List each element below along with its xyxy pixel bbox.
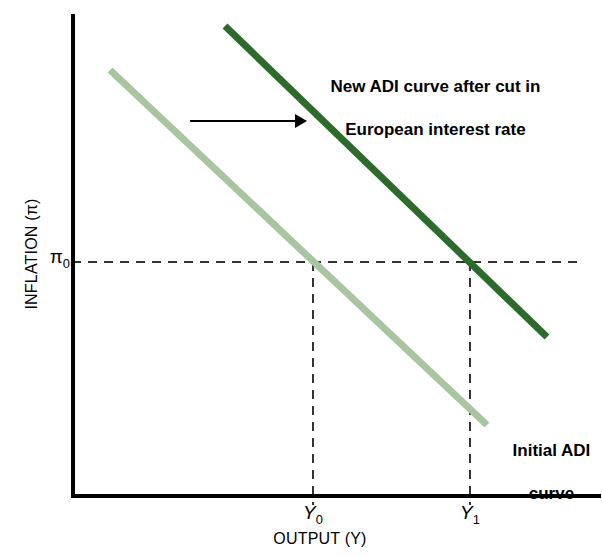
x-axis-title: OUTPUT (Y) bbox=[240, 530, 400, 548]
y-axis-tick-label-pi0: π0 bbox=[30, 246, 70, 271]
x-axis-tick-label-y1: Y1 bbox=[440, 502, 500, 527]
annotation-initial-adi-curve: Initial ADI curve bbox=[488, 418, 596, 527]
x-tick-y0-base: Y bbox=[303, 502, 316, 523]
annotation-new-adi-line2: European interest rate bbox=[345, 120, 525, 139]
shift-arrow-icon bbox=[190, 114, 307, 128]
annotation-initial-adi-line2: curve bbox=[529, 484, 574, 503]
x-tick-y0-subscript: 0 bbox=[316, 512, 323, 527]
annotation-new-adi-line1: New ADI curve after cut in bbox=[330, 77, 540, 96]
x-axis-tick-label-y0: Y0 bbox=[283, 502, 343, 527]
annotation-new-adi-curve: New ADI curve after cut in European inte… bbox=[292, 54, 560, 163]
adi-curve-shift-chart: New ADI curve after cut in European inte… bbox=[0, 0, 602, 557]
y-tick-pi0-subscript: 0 bbox=[63, 256, 70, 271]
x-tick-y1-subscript: 1 bbox=[473, 512, 480, 527]
annotation-initial-adi-line1: Initial ADI bbox=[513, 441, 591, 460]
x-tick-y1-base: Y bbox=[460, 502, 473, 523]
y-tick-pi0-base: π bbox=[50, 246, 63, 267]
